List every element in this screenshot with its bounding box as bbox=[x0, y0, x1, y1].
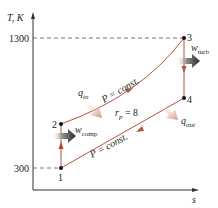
tick-1300: 1300 bbox=[9, 33, 29, 44]
pressure-ratio-label: rp = 8 bbox=[115, 107, 138, 121]
cycle bbox=[61, 38, 184, 168]
heat-in-arrow-icon bbox=[83, 100, 102, 118]
w-turb-label: wturb bbox=[191, 42, 209, 56]
y-axis-arrow-icon bbox=[31, 12, 35, 19]
state-3-dot bbox=[182, 36, 186, 40]
state-4-label: 4 bbox=[187, 94, 192, 105]
arrow-3-4-icon bbox=[182, 66, 187, 73]
state-1-dot bbox=[59, 166, 63, 170]
state-points bbox=[59, 36, 186, 170]
arrow-4-1-icon bbox=[136, 126, 144, 132]
tick-300: 300 bbox=[14, 163, 29, 174]
state-4-dot bbox=[182, 96, 186, 100]
upper-isobar-label: P = const. bbox=[99, 75, 141, 106]
y-axis-label: T, K bbox=[7, 12, 25, 23]
w-comp-arrow-icon bbox=[52, 129, 76, 143]
w-comp-label: wcomp bbox=[75, 124, 98, 138]
q-out-label: qout bbox=[181, 115, 196, 129]
state-2-dot bbox=[59, 122, 63, 126]
ts-diagram: T, K s 1300 300 1 2 3 4 P = const. P = c… bbox=[0, 0, 218, 208]
q-in-label: qin bbox=[78, 87, 89, 101]
x-axis-label: s bbox=[192, 194, 196, 205]
axes bbox=[31, 12, 199, 192]
arrow-1-2-icon bbox=[59, 142, 64, 149]
state-1-label: 1 bbox=[58, 172, 63, 183]
state-2-label: 2 bbox=[52, 119, 57, 130]
x-axis-arrow-icon bbox=[192, 188, 199, 192]
w-turb-arrow-icon bbox=[176, 54, 200, 68]
